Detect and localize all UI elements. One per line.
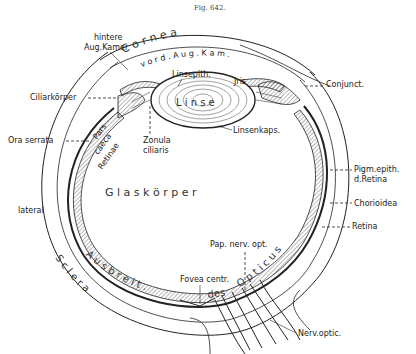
label-hintere: hintere xyxy=(94,33,123,42)
label-retina: Retina xyxy=(352,222,378,231)
label-chorioidea: Chorioidea xyxy=(354,199,397,208)
label-nerv-optic: Nerv.optic. xyxy=(298,329,341,338)
eye-anatomy-diagram: Fig. 642. C o r n e a v o r d . A u g . … xyxy=(0,0,416,354)
label-conjunct: Conjunct. xyxy=(326,80,364,89)
label-pigm-epith: Pigm.epith. xyxy=(354,165,399,174)
ciliary-body-left xyxy=(118,93,145,118)
label-lateral: lateral xyxy=(18,206,44,215)
label-d-retina: d.Retina xyxy=(354,175,387,184)
label-zonula: Zonula xyxy=(143,136,171,145)
label-linsepith: Linsepith. xyxy=(172,70,211,79)
label-fovea-centr: Fovea centr. xyxy=(180,275,229,284)
figure-caption: Fig. 642. xyxy=(194,4,226,12)
label-aug-kamer: Aug.Kamer xyxy=(84,43,129,52)
label-iris: Jris xyxy=(233,77,246,86)
label-linsenkaps: Linsenkaps. xyxy=(233,126,280,135)
label-linse: L i n s e xyxy=(176,97,215,108)
label-ora-serrata: Ora serrata xyxy=(8,136,54,145)
label-pap-nerv-opt: Pap. nerv. opt. xyxy=(210,240,268,249)
label-glaskoerper: G l a s k ö r p e r xyxy=(105,186,197,199)
label-ciliarkoerper: Ciliarkörper xyxy=(30,93,77,102)
label-ciliaris: ciliaris xyxy=(143,146,169,155)
pointer-linsenkaps xyxy=(218,126,232,130)
